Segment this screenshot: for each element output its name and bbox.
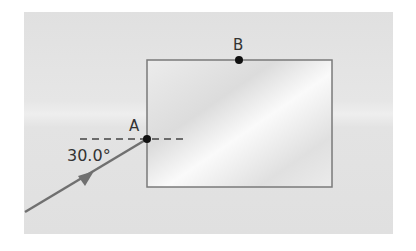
label-b: B [233,36,243,54]
point-a [143,135,151,143]
point-b [235,56,243,64]
glass-block [147,60,332,187]
ray-arrowhead-icon [78,171,94,186]
refraction-diagram: A B 30.0° [0,0,416,251]
angle-label: 30.0° [67,146,111,165]
label-a: A [129,117,140,135]
